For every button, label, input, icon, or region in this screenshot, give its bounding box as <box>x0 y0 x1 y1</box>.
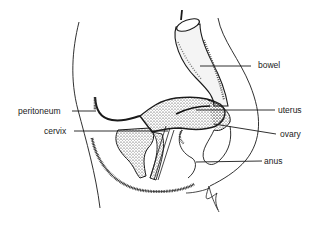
label-peritoneum: peritoneum <box>18 107 61 116</box>
bowel-drawing <box>175 10 228 106</box>
body-outline-back <box>73 22 100 208</box>
leader-anus <box>196 161 262 162</box>
cervix-drawing <box>116 128 154 178</box>
thigh-outline <box>206 186 218 210</box>
label-bowel: bowel <box>258 61 280 70</box>
anatomy-diagram: bowel peritoneum uterus cervix ovary anu… <box>0 0 322 237</box>
diagram-drawing <box>0 0 322 237</box>
label-cervix: cervix <box>44 127 66 136</box>
label-ovary: ovary <box>280 130 301 139</box>
label-uterus: uterus <box>278 106 302 115</box>
label-anus: anus <box>264 157 282 166</box>
peritoneum-line <box>95 97 140 121</box>
anus-drawing <box>179 130 195 178</box>
